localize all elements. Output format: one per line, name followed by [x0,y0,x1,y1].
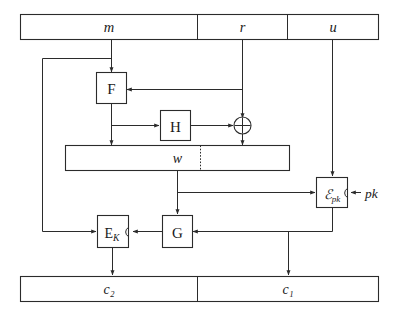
block-f-label: F [107,81,115,97]
input-field-m-label: m [104,19,114,35]
input-field-r-label: r [240,19,246,35]
intermediate-register-label: w [173,151,183,166]
diagram-canvas: m r u F [0,0,397,315]
wire-r-branch [127,40,243,119]
output-field-c2-label: c₂ [103,282,114,297]
wire-epk-to-g [193,208,333,232]
xor-gate [234,117,251,134]
input-register-outline [21,15,379,40]
wire-w-out [178,171,316,215]
block-h-label: H [170,119,181,135]
wire-epk-out [193,208,333,276]
output-register-outline [21,277,379,302]
input-field-u-label: u [329,19,336,35]
label-pk: pk [364,186,379,201]
intermediate-register: w [66,146,290,171]
block-g: G [163,216,193,248]
block-f: F [97,73,127,104]
block-epk: ℰpk [317,178,348,208]
block-diagram: m r u F [0,0,397,315]
output-field-c1-label: c₁ [282,282,293,297]
block-ek: EK [98,216,129,248]
output-register: c₂ c₁ [21,277,379,302]
wire-f-out [112,104,160,146]
block-h: H [161,111,191,141]
wire-pk-to-epk: pk [351,186,379,201]
block-g-label: G [172,225,183,241]
input-register: m r u [21,15,379,40]
